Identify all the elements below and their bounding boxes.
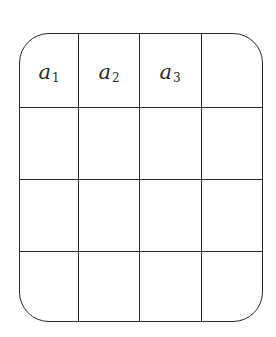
cell-label-a3: a3 xyxy=(140,62,200,84)
cell-label-base: a xyxy=(98,60,111,84)
column-divider-3 xyxy=(201,34,202,321)
cell-label-base: a xyxy=(38,60,51,84)
row-divider-2 xyxy=(20,179,262,180)
cell-label-subscript: 3 xyxy=(173,71,181,85)
row-divider-3 xyxy=(20,251,262,252)
cell-label-base: a xyxy=(159,60,172,84)
cell-label-subscript: 1 xyxy=(52,71,60,85)
cell-label-subscript: 2 xyxy=(112,71,120,85)
row-divider-1 xyxy=(20,107,262,108)
cell-label-a1: a1 xyxy=(19,62,79,84)
cell-label-a2: a2 xyxy=(79,62,139,84)
